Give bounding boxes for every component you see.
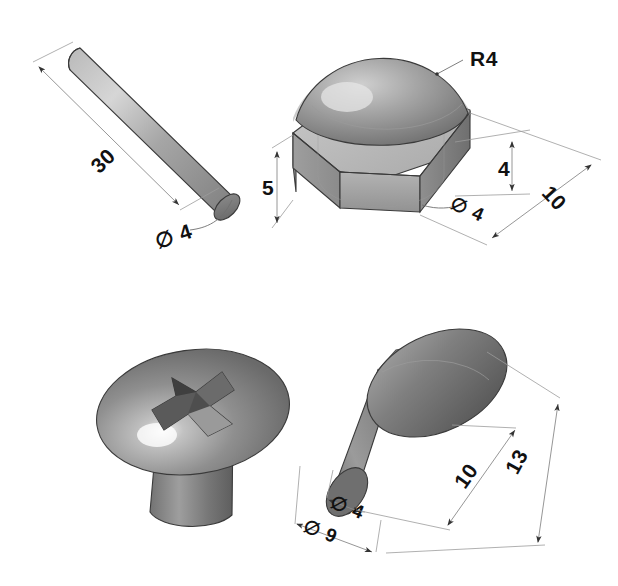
pin-length-label: 30 [86, 144, 119, 177]
figure-hex-dome-nut: R4 5 4 ∅ 4 10 [262, 47, 601, 245]
bore-depth-dimension: 4 [455, 130, 530, 196]
rivet-body [318, 307, 525, 523]
rivet-overall-dim-line [538, 404, 558, 542]
rivet-head-dia-ext-right [376, 520, 381, 552]
dome-radius-dimension: R4 [435, 47, 498, 76]
rivet-shank-len-ext-top [452, 425, 516, 428]
bore-depth-ext-bottom [455, 194, 530, 196]
dome-nut-height-dimension: 5 [262, 135, 293, 228]
rivet-overall-length-label: 13 [501, 445, 533, 477]
bore-diameter-label: ∅ 4 [448, 192, 488, 225]
nut-height-label: 5 [262, 176, 274, 199]
rivet-shank-length-dimension: 10 [356, 425, 516, 530]
pin-length-ext-line-start [33, 42, 73, 62]
dome-radius-label: R4 [470, 47, 498, 70]
screw-head-specular-highlight [137, 423, 177, 447]
bore-depth-label: 4 [498, 157, 510, 180]
dome-radius-anchor-dot [435, 72, 439, 76]
nut-height-ext-top [272, 135, 293, 148]
screw-head [88, 337, 297, 487]
hex-face-front [340, 172, 420, 212]
rivet-head-diameter-label: ∅ 9 [301, 515, 341, 547]
nut-height-ext-bottom [272, 200, 293, 228]
pin-cylinder-surface [69, 48, 234, 218]
rivet-shank-len-ext-bottom [356, 510, 450, 530]
figure-phillips-screw [88, 337, 297, 526]
figure-cylindrical-pin: 30 ∅ 4 [33, 42, 245, 253]
rivet-head-dia-ext-left [295, 466, 300, 524]
pin-body [69, 48, 245, 225]
across-flats-label: 10 [538, 181, 571, 215]
figure-round-head-rivet: ∅ 4 ∅ 9 10 13 [295, 307, 560, 553]
dome-specular-highlight [321, 82, 373, 112]
rivet-head-dome [349, 307, 524, 458]
dome-nut-body [293, 58, 470, 212]
technical-drawing-canvas: 30 ∅ 4 [0, 0, 618, 586]
pin-diameter-label: ∅ 4 [153, 219, 195, 252]
rivet-overall-ext-bottom [386, 545, 545, 553]
dome-radius-leader [437, 60, 463, 74]
drawing-sheet: 30 ∅ 4 [0, 0, 618, 586]
rivet-shank-length-label: 10 [449, 459, 482, 492]
